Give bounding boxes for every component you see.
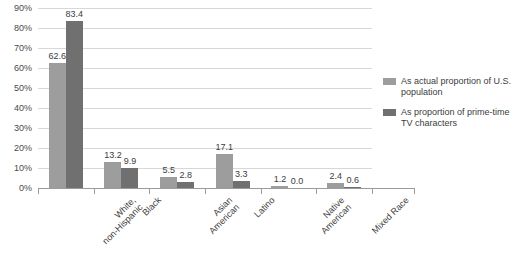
legend-swatch [383,78,396,85]
bar-group: 1.20.0 [261,8,317,188]
bar-group: 2.40.6 [316,8,372,188]
x-axis-tick [38,188,39,194]
x-axis-ticks [38,188,415,194]
x-axis-category-labels: White, non-HispanicBlackAsian AmericanLa… [38,195,415,261]
legend-label: As actual proportion of U.S. population [401,76,519,98]
bar-group: 5.52.8 [149,8,205,188]
x-axis-tick [94,188,95,194]
x-axis-tick [316,188,317,194]
bar-chart: 0%10%20%30%40%50%60%70%80%90% 62.683.413… [0,0,522,264]
y-axis-tick-label: 50% [14,84,32,93]
y-axis-tick-label: 0% [19,184,32,193]
bar-group: 13.29.9 [94,8,150,188]
bar [66,21,83,188]
chart-legend: As actual proportion of U.S. populationA… [383,76,519,138]
y-axis-labels: 0%10%20%30%40%50%60%70%80%90% [0,8,34,188]
y-axis-tick-label: 40% [14,104,32,113]
bar-value-label: 83.4 [61,10,88,19]
x-axis-tick [205,188,206,194]
bar-value-label: 2.8 [172,171,199,180]
x-axis-category-label: Native American [312,195,353,236]
y-axis-tick-label: 10% [14,164,32,173]
bar-group: 17.13.3 [205,8,261,188]
x-axis-category-label: White, non-Hispanic [93,195,144,246]
y-axis-tick-label: 30% [14,124,32,133]
bar-value-label: 0.0 [283,177,310,186]
bar-value-label: 0.6 [339,176,366,185]
bar-groups: 62.683.413.29.95.52.817.13.31.20.02.40.6 [38,8,372,188]
x-axis-category-label: Latino [252,195,276,219]
bar-value-label: 9.9 [116,157,143,166]
bar [233,181,250,188]
y-axis-tick-label: 70% [14,44,32,53]
bar-value-label: 17.1 [211,143,238,152]
x-axis-category-label: Black [140,195,163,218]
legend-item[interactable]: As proportion of prime-time TV character… [383,107,519,129]
x-axis-tick [261,188,262,194]
y-axis-tick-label: 90% [14,4,32,13]
legend-swatch [383,109,396,116]
bar [121,168,138,188]
x-axis-tick [372,188,373,194]
y-axis-tick-label: 60% [14,64,32,73]
legend-item[interactable]: As actual proportion of U.S. population [383,76,519,98]
plot-area: 62.683.413.29.95.52.817.13.31.20.02.40.6 [38,8,372,188]
y-axis-tick-label: 20% [14,144,32,153]
bar-value-label: 3.3 [228,170,255,179]
bar-group: 62.683.4 [38,8,94,188]
x-axis-category-label: Mixed Race [370,195,411,236]
legend-label: As proportion of prime-time TV character… [401,107,519,129]
bar [49,63,66,188]
x-axis-tick [149,188,150,194]
x-axis-category-label: Asian American [201,195,242,236]
x-axis-tick [414,188,415,194]
y-axis-tick-label: 80% [14,24,32,33]
